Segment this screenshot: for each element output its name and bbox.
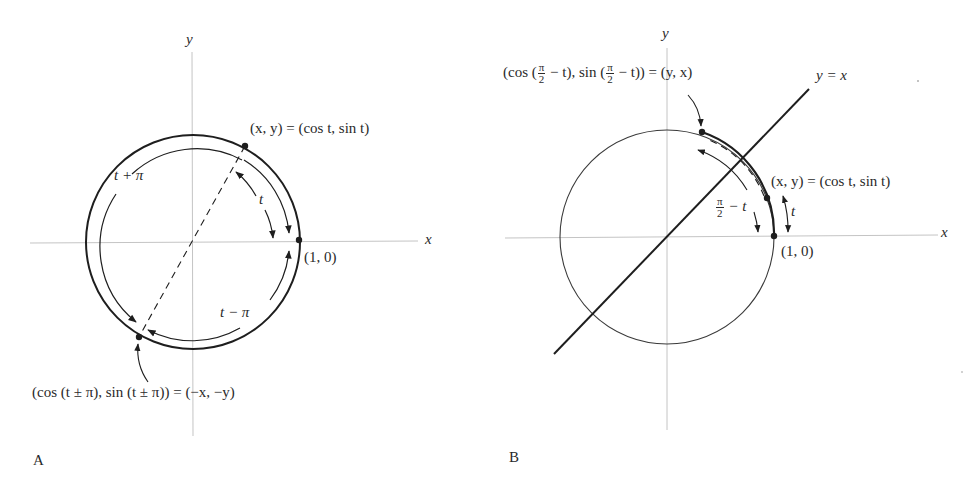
fraction-pi-over-2: π2 (716, 196, 724, 219)
panel-b-bold-arc (702, 132, 774, 236)
panel-a-antipode-leader (138, 344, 148, 382)
fraction-denominator: 2 (606, 74, 614, 85)
panel-a-arc-t-label: t (259, 192, 263, 207)
panel-b-point-reflected (699, 129, 705, 135)
panel-b-arc-complement (698, 150, 747, 190)
panel-b-x-axis-label: x (941, 225, 948, 240)
panel-b-graphic (505, 48, 963, 430)
panel-a-unit-point-label: (1, 0) (304, 250, 337, 265)
fraction-pi-over-2: π2 (538, 62, 546, 85)
panel-a-arc-t-plus-pi-label: t + π (114, 168, 143, 183)
panel-a-y-axis-label: y (186, 32, 193, 47)
panel-a-letter: A (33, 453, 44, 468)
fraction-pi-over-2: π2 (606, 62, 614, 85)
reflected-label-part-1: (cos ( (503, 64, 537, 80)
panel-a-arc-inner-top (132, 149, 242, 174)
panel-b-line-y-equals-x (554, 89, 809, 354)
panel-b-letter: B (509, 450, 519, 465)
panel-a-y-axis (192, 52, 193, 436)
panel-a-arc-t-minus-pi-lower (148, 328, 240, 341)
reflected-label-part-3: − t)) = (y, x) (615, 64, 693, 80)
panel-a-angle-arc-t-lower (265, 210, 273, 238)
fraction-denominator: 2 (716, 208, 724, 219)
panel-b-point-t (764, 195, 770, 201)
panel-b-unit-point-label: (1, 0) (781, 244, 814, 259)
panel-a-arc-t-minus-pi-label: t − π (220, 305, 249, 320)
panel-b-arc-t-label: t (791, 204, 795, 219)
panel-a-point-t-label: (x, y) = (cos t, sin t) (250, 121, 369, 136)
panel-a-arc-inner-right (244, 160, 289, 233)
speck (917, 80, 919, 82)
panel-b-point-t-label: (x, y) = (cos t, sin t) (771, 174, 890, 189)
panel-a-point-antipode (136, 334, 142, 340)
fraction-denominator: 2 (538, 74, 546, 85)
panel-a-x-axis-label: x (425, 232, 432, 247)
panel-b-arc-complement-lower (754, 212, 758, 232)
panel-b-x-axis (505, 235, 938, 238)
panel-a-antipode-label: (cos (t ± π), sin (t ± π)) = (−x, −y) (32, 385, 235, 400)
panel-a-x-axis (30, 241, 418, 243)
panel-b-reflected-leader (688, 95, 701, 126)
panel-b-reflected-point-label: (cos (π2 − t), sin (π2 − t)) = (y, x) (503, 62, 692, 85)
speck (961, 371, 963, 373)
reflected-label-part-2: − t), sin ( (546, 64, 605, 80)
panel-a-graphic (30, 52, 418, 436)
panel-b-arc-complement-label: π2 − t (715, 196, 746, 219)
complement-suffix: − t (725, 198, 747, 214)
panel-b-point-1-0 (771, 233, 777, 239)
panel-b-line-label: y = x (816, 68, 847, 83)
panel-a-point-t (242, 143, 248, 149)
panel-b-arc-t (783, 196, 788, 232)
panel-b-y-axis-label: y (662, 26, 669, 41)
panel-a-angle-arc-t (236, 172, 256, 196)
panel-a-point-1-0 (296, 237, 302, 243)
